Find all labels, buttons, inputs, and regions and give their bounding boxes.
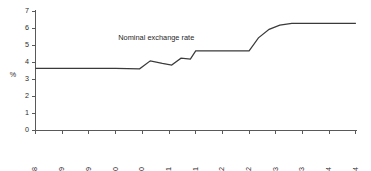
x-tick-label-april-01: April-01 xyxy=(164,167,173,171)
y-tick-label-6: 6 xyxy=(25,23,29,32)
x-tick-label-april-00: April-00 xyxy=(111,167,120,171)
series-annotation-nominal-exchange-rate: Nominal exchange rate xyxy=(118,33,194,42)
x-tick-label-oct-98: Oct-98 xyxy=(30,167,39,171)
x-tick-label-oct-03: Oct-03 xyxy=(297,167,306,171)
y-tick-label-4: 4 xyxy=(25,57,29,66)
chart-canvas: 7 6 5 4 3 2 1 0 % Oct-98 Apr xyxy=(0,0,371,171)
x-tick-label-april-03: April-03 xyxy=(271,167,280,171)
y-tick-label-1: 1 xyxy=(25,108,29,117)
y-axis-title: % xyxy=(10,70,17,79)
x-tick-label-april-02: April-02 xyxy=(217,167,226,171)
y-tick-label-2: 2 xyxy=(25,91,29,100)
x-tick-label-oct-99: Oct-99 xyxy=(84,167,93,171)
chart-figure: 7 6 5 4 3 2 1 0 % Oct-98 Apr xyxy=(0,0,371,171)
plot-background xyxy=(0,0,371,171)
x-tick-label-oct-01: Oct-01 xyxy=(191,167,200,171)
y-tick-label-0: 0 xyxy=(25,125,29,134)
x-tick-label-april-04: April-04 xyxy=(324,167,333,171)
y-tick-label-5: 5 xyxy=(25,40,29,49)
x-tick-label-oct-00: Oct-00 xyxy=(137,167,146,171)
x-tick-label-oct-02: Oct-02 xyxy=(244,167,253,171)
x-tick-label-april-99: April-99 xyxy=(57,167,66,171)
y-tick-label-3: 3 xyxy=(25,74,29,83)
y-tick-label-7: 7 xyxy=(25,6,29,15)
x-tick-label-oct-04: Oct-04 xyxy=(351,167,360,171)
